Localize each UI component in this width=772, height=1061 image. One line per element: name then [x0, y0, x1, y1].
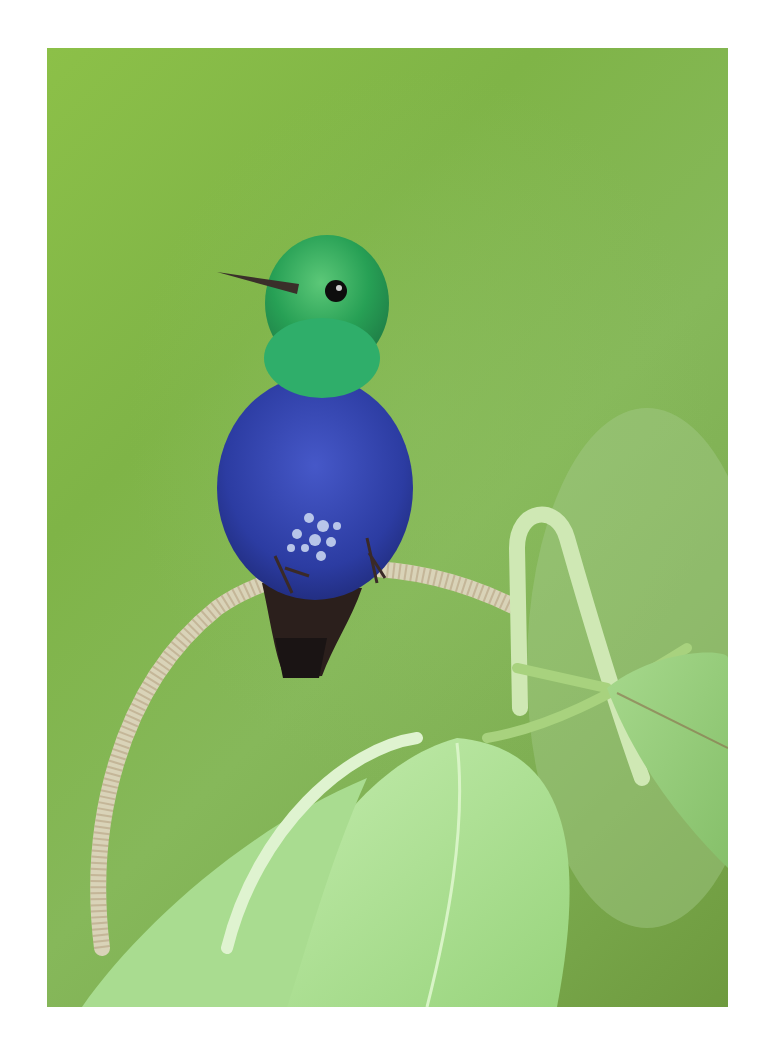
photo-illustration: [47, 48, 728, 1007]
hummingbird-photo: [47, 48, 728, 1007]
hummingbird-eye: [325, 280, 347, 302]
hummingbird-body: [217, 376, 413, 600]
